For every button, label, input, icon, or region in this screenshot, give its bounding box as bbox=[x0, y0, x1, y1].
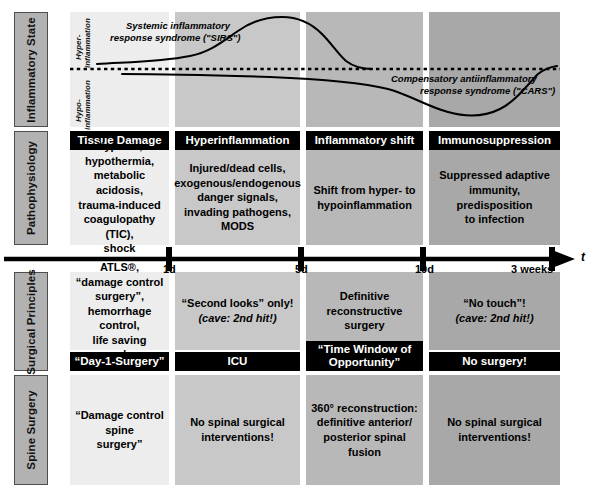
row-label-text: Inflammatory State bbox=[25, 17, 37, 122]
sirs-curve-label-line2: response syndrome ("SIRS") bbox=[110, 32, 240, 44]
phase-header-4: Immunosuppression bbox=[429, 131, 560, 150]
surgical-banner-4: No surgery! bbox=[429, 352, 560, 371]
surgical-principles-cell-2-main: “Second looks” only! bbox=[182, 296, 294, 311]
spine-surgery-cell-1: “Damage control spinesurgery” bbox=[70, 375, 169, 485]
inflammatory-state-chart: Hyper- inflammation Hypo- inflammation S… bbox=[70, 12, 560, 127]
row-label-text: Spine Surgery bbox=[25, 390, 37, 469]
timeline-label-1d: 1d bbox=[163, 263, 176, 275]
axis-label-hypo-inflammation-line2: inflammation bbox=[83, 80, 92, 130]
figure-canvas: Inflammatory State Pathophysiology Surgi… bbox=[0, 0, 597, 498]
row-label-inflammatory-state: Inflammatory State bbox=[14, 12, 48, 127]
spine-surgery-cell-4: No spinal surgicalinterventions! bbox=[429, 375, 560, 485]
axis-label-hypo-inflammation-line1: Hypo- bbox=[74, 99, 83, 122]
phase-header-3: Inflammatory shift bbox=[306, 131, 423, 150]
spine-surgery-cell-3: 360° reconstruction:definitive anterior/… bbox=[306, 375, 423, 485]
surgical-principles-cell-4-main: “No touch”! bbox=[463, 296, 525, 311]
surgical-principles-cell-4-cave: (cave: 2nd hit!) bbox=[455, 311, 533, 326]
surgical-principles-cell-2: “Second looks” only! (cave: 2nd hit!) bbox=[175, 272, 300, 350]
row-label-text: Surgical Principles bbox=[25, 269, 37, 374]
surgical-principles-cell-4: “No touch”! (cave: 2nd hit!) bbox=[429, 272, 560, 350]
pathophysiology-cell-2: Injured/dead cells,exogenous/endogenousd… bbox=[175, 150, 300, 245]
cars-curve-label-line1: Compensatory antiinflammatory bbox=[391, 73, 537, 85]
timeline-axis-symbol: t bbox=[581, 250, 585, 264]
axis-label-hyper-inflammation-line1: Hyper- bbox=[74, 35, 83, 60]
timeline-label-10d: 10d bbox=[415, 263, 434, 275]
pathophysiology-cell-4: Suppressed adaptiveimmunity,predispositi… bbox=[429, 150, 560, 245]
timeline-label-3-weeks: 3 weeks bbox=[511, 263, 553, 275]
row-label-surgical-principles: Surgical Principles bbox=[14, 272, 48, 371]
timeline-label-5d: 5d bbox=[295, 263, 308, 275]
surgical-banner-1: “Day-1-Surgery” bbox=[70, 352, 169, 371]
phase-header-2: Hyperinflammation bbox=[175, 131, 300, 150]
pathophysiology-cell-1: Hypoxia,hypothermia,metabolic acidosis,t… bbox=[70, 150, 169, 245]
spine-surgery-cell-2: No spinal surgicalinterventions! bbox=[175, 375, 300, 485]
surgical-principles-cell-2-cave: (cave: 2nd hit!) bbox=[198, 311, 276, 326]
row-label-text: Pathophysiology bbox=[25, 141, 37, 235]
timeline-arrowhead bbox=[552, 250, 575, 268]
axis-label-hyper-inflammation-line2: inflammation bbox=[83, 18, 92, 68]
surgical-principles-cell-3: Definitivereconstructivesurgery bbox=[306, 272, 423, 350]
surgical-banner-3: “Time Window ofOpportunity” bbox=[306, 341, 423, 371]
surgical-banner-2: ICU bbox=[175, 352, 300, 371]
row-label-spine-surgery: Spine Surgery bbox=[14, 375, 48, 485]
cars-curve-label-line2: response syndrome ("CARS") bbox=[420, 85, 555, 97]
sirs-curve-label-line1: Systemic inflammatory bbox=[126, 20, 230, 32]
pathophysiology-cell-3: Shift from hyper- tohypoinflammation bbox=[306, 150, 423, 245]
surgical-principles-cell-1: ATLS®,“damage control surgery”,hemorrhag… bbox=[70, 272, 169, 350]
row-label-pathophysiology: Pathophysiology bbox=[14, 131, 48, 245]
